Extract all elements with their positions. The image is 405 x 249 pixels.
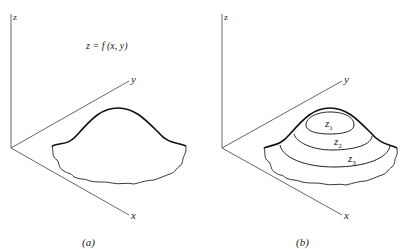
z-axis-label-b: z <box>224 13 228 22</box>
x-axis-label-a: x <box>131 210 136 221</box>
panel-a-surface <box>52 108 186 184</box>
contour-label-z3: z3 <box>348 153 356 167</box>
surface-base-a <box>52 146 186 184</box>
contour-z3-sub: 3 <box>352 159 356 167</box>
panel-b-axes <box>222 14 342 215</box>
y-axis-label-a: y <box>131 74 136 85</box>
contour-label-z2: z2 <box>334 136 342 150</box>
equation-label: z = f (x, y) <box>86 41 127 51</box>
z-axis-label-a: z <box>13 13 17 22</box>
caption-b: (b) <box>296 237 309 248</box>
contour-z2 <box>294 134 372 150</box>
contour-z2-sub: 2 <box>338 142 342 150</box>
caption-a: (a) <box>82 237 95 248</box>
contour-z1-sub: 1 <box>329 124 333 132</box>
contour-label-z1: z1 <box>325 118 333 132</box>
x-axis-label-b: x <box>344 210 349 221</box>
y-axis-b <box>222 81 342 148</box>
x-axis-a <box>11 148 129 215</box>
x-axis-b <box>222 148 342 215</box>
y-axis-label-b: y <box>344 74 349 85</box>
y-axis-a <box>11 81 129 148</box>
